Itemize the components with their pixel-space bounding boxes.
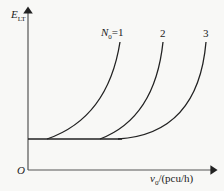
curve-n3: [118, 42, 206, 139]
curve-n1: [47, 42, 120, 139]
chart-root: ELT O v0/(pcu/h) N0=1 2 3: [0, 0, 224, 191]
curve2-label: 2: [160, 27, 166, 39]
curve1-label: N0=1: [101, 26, 124, 41]
curve-n2: [100, 42, 163, 139]
origin-label: O: [17, 164, 25, 176]
y-axis-label: ELT: [11, 8, 26, 23]
curve3-label: 3: [203, 27, 209, 39]
x-axis-label: v0/(pcu/h): [150, 172, 193, 187]
